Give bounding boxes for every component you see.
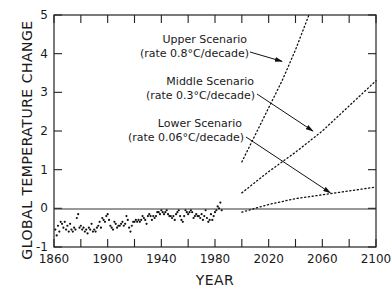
observed-point <box>76 217 78 219</box>
observed-point <box>54 229 56 231</box>
observed-point <box>154 217 156 219</box>
observed-point <box>188 211 190 213</box>
observed-point <box>186 211 188 213</box>
observed-point <box>61 223 63 225</box>
annotation-upper-line2: (rate 0.8°C/decade) <box>140 47 249 60</box>
annotation-arrow <box>257 94 313 131</box>
observed-point <box>73 227 75 229</box>
observed-point <box>207 221 209 223</box>
observed-point <box>200 213 202 215</box>
observed-point <box>164 211 166 213</box>
observed-point <box>209 219 211 221</box>
observed-point <box>78 227 80 229</box>
observed-point <box>137 219 139 221</box>
observed-point <box>195 213 197 215</box>
observed-point <box>135 219 137 221</box>
observed-point <box>194 215 196 217</box>
observed-point <box>167 213 169 215</box>
observed-point <box>64 221 66 223</box>
observed-point <box>139 221 141 223</box>
observed-point <box>192 217 194 219</box>
observed-point <box>65 229 67 231</box>
observed-point <box>121 221 123 223</box>
y-tick-label: -1 <box>36 240 48 254</box>
observed-point <box>94 230 96 232</box>
observed-point <box>159 213 161 215</box>
annotations <box>246 52 330 193</box>
observed-point <box>104 221 106 223</box>
observed-point <box>96 227 98 229</box>
observed-point <box>218 207 220 209</box>
annotation-upper-line1: Upper Scenario <box>162 33 247 46</box>
observed-point <box>89 229 91 231</box>
observed-point <box>172 215 174 217</box>
observed-point <box>160 209 162 211</box>
observed-point <box>136 221 138 223</box>
x-tick-label: 1980 <box>200 252 231 266</box>
observed-point <box>124 223 126 225</box>
annotation-middle-line1: Middle Scenario <box>166 75 254 88</box>
observed-point <box>101 217 103 219</box>
observed-point <box>100 227 102 229</box>
observed-point <box>143 217 145 219</box>
observed-point <box>162 211 164 213</box>
observed-point <box>116 227 118 229</box>
observed-point <box>103 219 105 221</box>
observed-point <box>113 221 115 223</box>
observed-point <box>74 229 76 231</box>
observed-point <box>129 230 131 232</box>
observed-point <box>215 209 217 211</box>
observed-point <box>131 225 133 227</box>
observed-point <box>217 205 219 207</box>
observed-point <box>140 219 142 221</box>
observed-point <box>60 221 62 223</box>
y-tick-label: 0 <box>40 201 48 215</box>
observed-point <box>211 219 213 221</box>
observed-point <box>105 215 107 217</box>
x-axis-title: YEAR <box>195 272 235 288</box>
observed-point <box>84 230 86 232</box>
scenario-line <box>242 187 376 212</box>
observed-point <box>145 223 147 225</box>
observed-point <box>174 219 176 221</box>
observed-point <box>128 227 130 229</box>
observed-point <box>199 217 201 219</box>
observed-point <box>144 219 146 221</box>
observed-point <box>213 215 215 217</box>
observed-point <box>72 230 74 232</box>
observed-point <box>85 229 87 231</box>
observed-point <box>82 227 84 229</box>
x-tick-label: 1860 <box>39 252 70 266</box>
observed-point <box>191 211 193 213</box>
annotation-lower-line2: (rate 0.06°C/decade) <box>128 131 244 144</box>
x-tick-label: 1940 <box>146 252 177 266</box>
observed-point <box>141 215 143 217</box>
observed-point <box>202 219 204 221</box>
observed-point <box>69 223 71 225</box>
x-tick-label: 2060 <box>307 252 338 266</box>
observed-point <box>219 201 221 203</box>
observed-point <box>158 211 160 213</box>
x-tick-label: 2020 <box>253 252 284 266</box>
observed-point <box>175 213 177 215</box>
observed-point <box>111 227 113 229</box>
observed-point <box>180 219 182 221</box>
observed-point <box>99 221 101 223</box>
observed-point <box>70 229 72 231</box>
y-tick-label: 3 <box>40 85 48 99</box>
observed-point <box>147 215 149 217</box>
observed-point <box>93 229 95 231</box>
observed-point <box>90 223 92 225</box>
y-tick-label: 2 <box>40 124 48 138</box>
observed-point <box>206 217 208 219</box>
observed-point <box>92 230 94 232</box>
y-tick-label: 1 <box>40 163 48 177</box>
observed-point <box>56 234 58 236</box>
observed-point <box>163 213 165 215</box>
x-tick-label: 2100 <box>361 252 392 266</box>
observed-point <box>166 209 168 211</box>
observed-point <box>88 227 90 229</box>
observed-point <box>214 211 216 213</box>
observed-point <box>127 219 129 221</box>
observed-point <box>77 213 79 215</box>
